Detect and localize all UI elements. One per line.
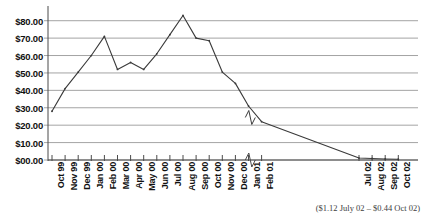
x-axis-tick-label: Jun 00: [160, 162, 170, 189]
line-chart: $00.00$10.00$20.00$30.00$40.00$50.00$60.…: [0, 0, 424, 213]
x-axis-tick-label: Mar 00: [121, 162, 131, 189]
chart-svg: [48, 12, 418, 160]
y-axis-tick-label: $40.00: [15, 85, 43, 96]
plot-area: [48, 12, 418, 160]
x-axis-tick-label: Feb 01: [265, 162, 275, 189]
x-axis-tick-label: Dec 99: [82, 162, 92, 190]
x-axis-tick-label: Jul 02: [363, 162, 373, 186]
x-axis-tick-label: Aug 00: [187, 162, 197, 191]
x-axis-tick-label: Oct 02: [402, 162, 412, 188]
axis-lines: [48, 6, 418, 161]
x-axis-tick-label: Sep 02: [389, 162, 399, 190]
y-axis-tick-label: $00.00: [15, 155, 43, 166]
y-axis-tick-label: $10.00: [15, 137, 43, 148]
y-axis-labels: $00.00$10.00$20.00$30.00$40.00$50.00$60.…: [0, 0, 46, 160]
x-axis-tick-label: Dec 00: [239, 162, 249, 190]
y-axis-tick-label: $50.00: [15, 67, 43, 78]
y-axis-tick-label: $70.00: [15, 33, 43, 44]
x-axis-tick-label: Jul 00: [173, 162, 183, 186]
y-axis-tick-label: $30.00: [15, 102, 43, 113]
y-axis-tick-label: $80.00: [15, 15, 43, 26]
chart-caption: ($1.12 July 02 – $0.44 Oct 02): [316, 203, 420, 213]
y-axis-tick-label: $60.00: [15, 50, 43, 61]
y-axis-tick-label: $20.00: [15, 120, 43, 131]
x-axis-tick-label: Nov 00: [226, 162, 236, 190]
x-axis-tick-label: Oct 99: [56, 162, 66, 188]
axis-break-icon: [245, 110, 255, 167]
x-axis-labels: Oct 99Nov 99Dec 99Jan 00Feb 00Mar 00Apr …: [48, 162, 420, 204]
x-axis-tick-label: Aug 02: [376, 162, 386, 191]
x-axis-tick-label: Jan 01: [252, 162, 262, 189]
x-axis-tick-label: May 00: [147, 162, 157, 191]
x-axis-tick-label: Feb 00: [108, 162, 118, 189]
x-axis-tick-label: Jan 00: [95, 162, 105, 189]
x-axis-tick-label: Nov 99: [69, 162, 79, 190]
x-axis-tick-label: Oct 00: [213, 162, 223, 188]
x-axis-tick-label: Apr 00: [134, 162, 144, 189]
gridlines: [44, 21, 418, 160]
data-point-markers: [51, 15, 399, 161]
x-axis-tick-label: Sep 00: [200, 162, 210, 190]
